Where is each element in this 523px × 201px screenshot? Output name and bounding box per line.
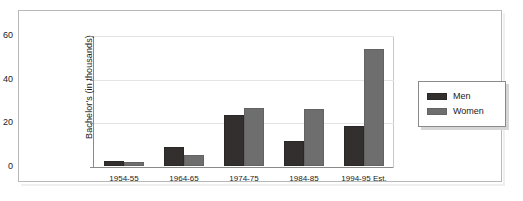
bar-men-1954-55[interactable] (104, 161, 124, 166)
y-tick-label: 20 (0, 118, 13, 127)
y-tick-label: 40 (0, 75, 13, 84)
legend-label-women: Women (453, 107, 484, 116)
bar-women-1974-75[interactable] (244, 108, 264, 166)
bar-group (104, 35, 144, 166)
plot-area: Bachelor's (in thousands) 0204060 1954-5… (93, 36, 393, 168)
bar-women-1964-65[interactable] (184, 155, 204, 166)
legend-item-women[interactable]: Women (427, 104, 499, 119)
y-tick-label: 60 (0, 31, 13, 40)
men-color-swatch (427, 93, 447, 100)
legend-item-men[interactable]: Men (427, 89, 499, 104)
bar-women-1994-95-est-[interactable] (364, 49, 384, 166)
bar-group (344, 35, 384, 166)
figure-drop-shadow-bottom (21, 184, 505, 186)
bar-women-1954-55[interactable] (124, 162, 144, 166)
bar-men-1994-95-est-[interactable] (344, 126, 364, 166)
y-axis-title: Bachelor's (in thousands) (84, 7, 94, 167)
chart-figure-frame: Bachelor's (in thousands) 0204060 1954-5… (18, 10, 502, 182)
women-color-swatch (427, 108, 447, 115)
bar-men-1974-75[interactable] (224, 115, 244, 166)
bar-group (224, 35, 264, 166)
bar-group (164, 35, 204, 166)
bar-women-1984-85[interactable] (304, 109, 324, 166)
y-tick-label: 0 (0, 162, 13, 171)
legend-label-men: Men (453, 92, 471, 101)
plot-right-border (393, 36, 394, 168)
bar-men-1964-65[interactable] (164, 147, 184, 166)
x-tick-label: 1994-95 Est. (324, 175, 404, 183)
bar-group (284, 35, 324, 166)
y-tick-mark (90, 167, 94, 168)
bar-men-1984-85[interactable] (284, 141, 304, 166)
chart-legend: Men Women (418, 81, 506, 127)
